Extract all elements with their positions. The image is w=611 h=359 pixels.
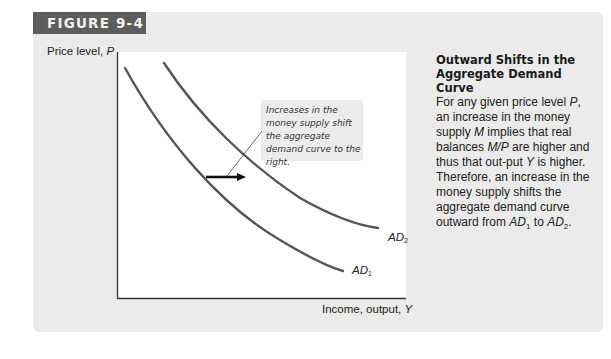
caption-text: For any given price level (436, 95, 569, 109)
ad2-label: AD2 (388, 231, 408, 244)
caption-var-mp: M/P (487, 140, 508, 154)
caption-var-y: Y (526, 155, 534, 169)
callout-leader-line (227, 131, 262, 176)
x-axis-variable: Y (404, 303, 412, 315)
caption-var-ad2: AD (547, 215, 564, 229)
ad1-label-sub: 1 (368, 270, 372, 277)
x-axis-label: Income, output, Y (322, 303, 412, 315)
x-axis-label-text: Income, output, (322, 303, 404, 315)
figure-caption: Outward Shifts in the Aggregate Demand C… (436, 53, 596, 234)
caption-var-m: M (474, 125, 484, 139)
ad2-label-text: AD (388, 231, 404, 243)
caption-var-ad1: AD (509, 215, 526, 229)
caption-text: . (568, 215, 571, 229)
shift-arrow-icon (237, 173, 246, 181)
ad1-label-text: AD (352, 264, 368, 276)
ad2-curve (164, 63, 378, 228)
ad1-label: AD1 (352, 264, 372, 277)
ad1-curve (125, 68, 343, 271)
ad2-label-sub: 2 (404, 237, 408, 244)
caption-body: For any given price level P, an increase… (436, 95, 596, 234)
caption-text: to (530, 215, 547, 229)
caption-title: Outward Shifts in the Aggregate Demand C… (436, 53, 596, 95)
